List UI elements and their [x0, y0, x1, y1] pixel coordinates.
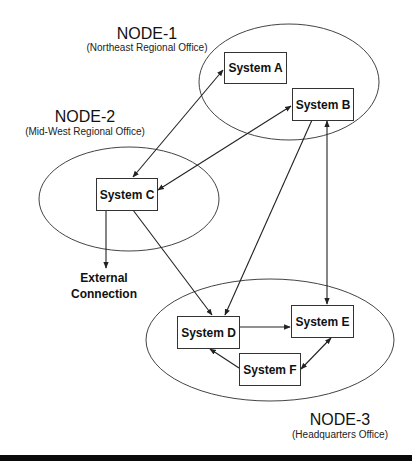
network-diagram: [0, 0, 412, 461]
edge-b-c: [158, 106, 291, 190]
node-3-title: NODE-3: [310, 411, 370, 429]
system-b-box: System B: [292, 88, 354, 121]
node-2-subtitle: (Mid-West Regional Office): [25, 126, 145, 137]
external-label-line2: Connection: [71, 286, 137, 302]
node-1-title: NODE-1: [117, 25, 177, 43]
node-1-subtitle: (Northeast Regional Office): [87, 42, 208, 53]
system-f-box: System F: [239, 353, 301, 386]
system-a-box: System A: [224, 52, 287, 84]
edge-b-d: [225, 120, 312, 315]
edge-a-c: [133, 70, 223, 177]
external-connection-label: External Connection: [71, 270, 137, 302]
node-3-subtitle: (Headquarters Office): [292, 429, 388, 440]
system-c-box: System C: [96, 178, 158, 211]
system-d-box: System D: [177, 316, 240, 349]
bottom-bar: [0, 455, 412, 461]
edge-e-f: [301, 338, 331, 369]
system-e-box: System E: [291, 305, 354, 338]
node-2-title: NODE-2: [55, 108, 115, 126]
edge-f-d: [210, 349, 239, 368]
external-label-line1: External: [71, 270, 137, 286]
edge-c-d: [133, 210, 212, 315]
